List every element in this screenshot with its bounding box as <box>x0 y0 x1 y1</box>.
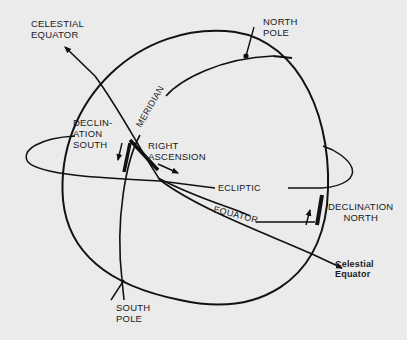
meridian-line-lower <box>120 135 140 300</box>
declination-south-label: DECLIN- ATION SOUTH <box>73 117 112 150</box>
celestial-equator-bottom-label: Celestial Equator <box>335 259 374 279</box>
meridian-line <box>166 56 273 96</box>
meridian-pole-segment <box>273 56 292 58</box>
declination-north-label: DECLINATION NORTH <box>328 201 393 223</box>
declination-north-arc <box>317 195 322 225</box>
south-pole-label: SOUTH POLE <box>116 302 150 324</box>
celestial-sphere-diagram: MERIDIAN ECLIPTIC EQUATOR CELESTIAL EQUA… <box>0 0 407 340</box>
right-ascension-arrow <box>158 164 178 173</box>
meridian-label: MERIDIAN <box>134 84 166 129</box>
celestial-sphere-outline <box>62 31 328 305</box>
right-ascension-label: RIGHT ASCENSION <box>148 140 206 162</box>
celestial-equator-axis-main <box>95 76 312 254</box>
diagram-canvas: MERIDIAN ECLIPTIC EQUATOR <box>0 0 407 340</box>
celestial-equator-top-label: CELESTIAL EQUATOR <box>31 18 84 40</box>
ecliptic-label: ECLIPTIC <box>218 183 261 193</box>
north-pole-label: NORTH POLE <box>263 16 298 38</box>
declination-south-arc <box>124 143 130 172</box>
celestial-equator-axis <box>65 47 95 76</box>
ecliptic-line-right <box>288 146 353 188</box>
declination-south-arrow <box>118 143 122 160</box>
north-pole-leader <box>246 27 254 56</box>
south-pole-leader <box>111 280 124 300</box>
